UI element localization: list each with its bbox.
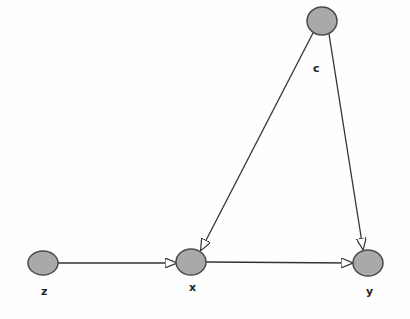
node-c[interactable]: c [307, 7, 337, 75]
node-z[interactable]: z [28, 251, 58, 298]
diagram-canvas: czxy [0, 0, 410, 319]
node-x[interactable]: x [176, 249, 206, 294]
node-label: y [366, 285, 373, 298]
node-shape[interactable] [176, 249, 206, 275]
causal-graph: czxy [0, 0, 410, 319]
node-shape[interactable] [28, 251, 58, 275]
edge-c-to-x [201, 33, 313, 250]
edge-x-to-y [206, 262, 352, 263]
node-y[interactable]: y [353, 250, 383, 298]
node-shape[interactable] [307, 7, 337, 35]
node-label: x [189, 281, 196, 294]
nodes-group: czxy [28, 7, 383, 298]
node-label: z [41, 285, 47, 298]
node-shape[interactable] [353, 250, 383, 276]
edge-c-to-y [329, 34, 363, 249]
node-label: c [313, 62, 320, 75]
